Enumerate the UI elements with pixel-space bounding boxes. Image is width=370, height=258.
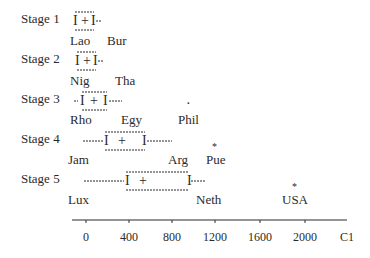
x-tick-label: 2000 [293,230,317,245]
stage-2-median: + [83,53,91,69]
country-label: Egy [121,112,142,128]
country-label: Arg [168,152,188,168]
stage-5-median: + [139,173,147,189]
stage-3-q3: I [103,93,108,109]
country-label: Tha [115,73,135,89]
stage-5-q3: I [187,173,192,189]
x-tick-label: 1600 [248,230,272,245]
x-tick-label: 1200 [203,230,227,245]
boxplot-canvas [0,0,370,258]
x-tick-label: 0 [83,230,89,245]
country-label: Nig [70,73,90,89]
stage-5-outlier: * [292,181,297,192]
stage-1-q3: I [91,13,96,29]
stage-4-median: + [118,133,126,149]
stage-4-q3: I [142,133,147,149]
x-tick-label: 400 [120,230,138,245]
stage-3-q1: I [80,93,85,109]
stage-1-median: + [81,13,89,29]
stage-3-median: + [90,93,98,109]
country-label: Lao [70,33,90,49]
stage-3-outlier: · [186,96,191,112]
stage-4-q1: I [104,133,109,149]
stage-1-q1: I [73,13,78,29]
country-label: USA [282,192,308,208]
country-label: Jam [68,152,89,168]
country-label: Bur [107,33,127,49]
stage-2-q1: I [75,53,80,69]
stage-5-q1: I [125,173,130,189]
stage-4-box [83,132,172,150]
stage-4-outlier: * [212,141,217,152]
x-tick-label: 800 [163,230,181,245]
country-label: Lux [68,192,89,208]
x-axis-label: C1 [340,230,354,245]
country-label: Pue [206,152,226,168]
country-label: Rho [70,112,92,128]
x-axis [72,220,347,223]
country-label: Phil [178,112,199,128]
country-label: Neth [196,192,221,208]
stage-2-q3: I [93,53,98,69]
